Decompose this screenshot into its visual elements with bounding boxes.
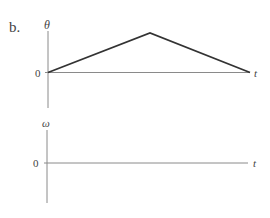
diagram-canvas: b. θ 0 t ω 0 t (0, 0, 270, 218)
theta-origin-label: 0 (35, 67, 41, 79)
omega-graph: ω 0 t (33, 117, 257, 203)
omega-t-axis-label: t (253, 157, 257, 169)
theta-t-axis-label: t (254, 67, 258, 79)
theta-curve (48, 33, 250, 73)
theta-graph: θ 0 t (35, 18, 258, 108)
theta-axis-label: θ (44, 18, 50, 32)
omega-axis-label: ω (42, 117, 50, 129)
figure-label: b. (9, 19, 20, 35)
omega-origin-label: 0 (33, 157, 39, 169)
